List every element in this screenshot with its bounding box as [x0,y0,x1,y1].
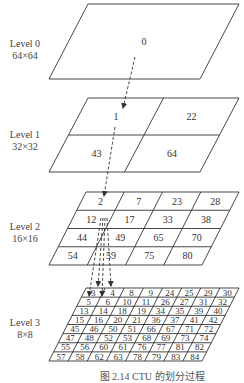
cu-index-label: 59 [106,250,116,261]
cu-index-label: 12 [86,214,96,225]
grid-col-line [200,4,239,79]
cu-index-label: 3 [91,288,96,298]
cu-index-label: 33 [163,214,173,225]
cu-index-label: 83 [171,352,181,362]
split-arrow-icon [104,127,115,196]
level-0-label: Level 0 64×64 [2,38,48,62]
cu-index-label: 28 [210,196,220,207]
cu-index-label: 78 [133,352,143,362]
split-arrow-icon [89,218,101,296]
level-0-plane: 0 [49,4,239,79]
cu-index-label: 70 [192,232,202,243]
level-3-name: Level 3 [2,317,48,329]
level-3-size: 8×8 [2,329,48,341]
cu-index-label: 64 [167,148,177,159]
cu-index-label: 4 [110,288,115,298]
cu-index-label: 7 [136,196,141,207]
figure-caption: 图 2.14 CTU 的划分过程 [60,368,244,383]
cu-index-label: 58 [76,352,86,362]
cu-index-label: 49 [115,232,125,243]
cu-index-label: 80 [183,250,193,261]
cu-index-label: 43 [92,148,102,159]
cu-index-label: 1 [114,111,119,122]
split-arrow-icon [123,57,135,108]
level-0-size: 64×64 [2,50,48,62]
level-2-plane: 272328121733384449657054597580 [49,192,239,265]
level-0-name: Level 0 [2,38,48,50]
level-3-label: Level 3 8×8 [2,317,48,341]
cu-index-label: 0 [142,36,147,47]
cu-index-label: 65 [154,232,164,243]
cu-index-label: 44 [77,232,87,243]
cu-index-label: 23 [172,196,182,207]
grid-col-line [49,4,88,79]
level-2-name: Level 2 [2,221,48,233]
level-1-plane: 1224364 [49,98,239,172]
cu-index-label: 2 [98,196,103,207]
cu-index-label: 75 [144,250,154,261]
cu-index-label: 54 [68,250,78,261]
cu-index-label: 22 [187,111,197,122]
cu-index-label: 84 [190,352,200,362]
level-1-name: Level 1 [2,129,48,141]
cu-index-label: 79 [152,352,162,362]
level-2-size: 16×16 [2,233,48,245]
cu-index-label: 63 [114,352,124,362]
level-planes: 0122436427232812173338444965705459758034… [49,4,239,362]
cu-index-label: 57 [56,352,66,362]
level-1-label: Level 1 32×32 [2,129,48,153]
level-3-plane: 3489242529305610112627313213141819343539… [49,288,239,362]
cu-index-label: 17 [125,214,135,225]
cu-index-label: 38 [201,214,211,225]
level-1-size: 32×32 [2,141,48,153]
level-2-label: Level 2 16×16 [2,221,48,245]
cu-index-label: 62 [95,352,104,362]
